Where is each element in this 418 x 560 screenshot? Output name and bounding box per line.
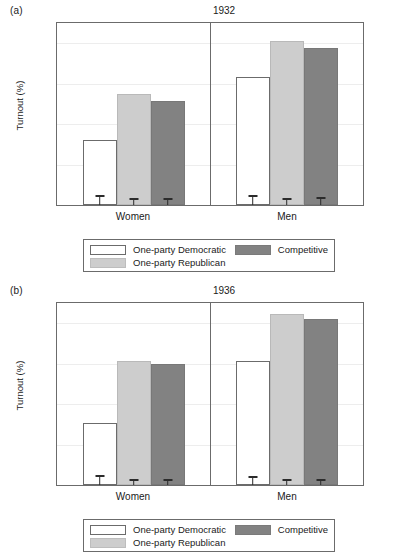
error-bar-line [252, 197, 254, 205]
bar-comp-women[interactable] [151, 364, 185, 485]
bar-slot [117, 303, 151, 485]
legend-row: One-party Republican [90, 256, 328, 269]
panel-a: (a) 1932 Turnout (%) 020406080 Women Men… [0, 0, 418, 280]
legend-item-one-party-republican: One-party Republican [90, 537, 242, 548]
panel-a-plot-area: 020406080 [56, 22, 364, 206]
error-bar-line [99, 477, 101, 485]
panel-a-y-axis-label: Turnout (%) [14, 51, 25, 161]
legend-item-competitive: Competitive [235, 244, 328, 255]
panel-b-y-axis-label: Turnout (%) [14, 331, 25, 441]
bar-slot [151, 23, 185, 205]
panel-b-xtick-women: Women [56, 491, 210, 502]
panel-a-xtick-men: Men [210, 211, 364, 222]
panel-b-legend: One-party Democratic Competitive One-par… [83, 519, 335, 552]
legend-label-republican: One-party Republican [133, 537, 225, 548]
legend-swatch-democratic-icon [90, 525, 126, 535]
bar-slot [151, 303, 185, 485]
panel-b-plot-area: 020406080 [56, 302, 364, 486]
error-bar-cap-upper [95, 195, 104, 197]
panel-b: (b) 1936 Turnout (%) 020406080 Women Men… [0, 280, 418, 560]
legend-swatch-republican-icon [90, 258, 126, 268]
bar-group-men [210, 23, 363, 205]
bar-dem-men[interactable] [236, 361, 270, 485]
bar-slot [117, 23, 151, 205]
bar-slot [304, 23, 338, 205]
error-bar-cap-upper [316, 479, 325, 481]
error-bar-line [286, 481, 288, 485]
bar-slot [236, 303, 270, 485]
error-bar-cap-upper [95, 475, 104, 477]
error-bar-cap-upper [282, 479, 291, 481]
panel-a-xtick-women: Women [56, 211, 210, 222]
legend-item-one-party-republican: One-party Republican [90, 257, 242, 268]
error-bar-line [99, 197, 101, 205]
bar-rep-men[interactable] [270, 314, 304, 485]
error-bar-cap-upper [163, 198, 172, 200]
legend-label-competitive: Competitive [278, 524, 328, 535]
error-bar-line [133, 481, 135, 485]
bar-dem-women[interactable] [83, 140, 117, 205]
bar-slot [304, 303, 338, 485]
bar-rep-women[interactable] [117, 361, 151, 485]
error-bar-cap-upper [129, 479, 138, 481]
bar-slot [236, 23, 270, 205]
error-bar-line [167, 481, 169, 485]
bar-slot [270, 303, 304, 485]
legend-label-republican: One-party Republican [133, 257, 225, 268]
bar-group-women [57, 303, 210, 485]
legend-label-democratic: One-party Democratic [133, 524, 226, 535]
error-bar-cap-upper [316, 197, 325, 199]
panel-b-xtick-men: Men [210, 491, 364, 502]
legend-swatch-competitive-icon [235, 525, 271, 535]
legend-item-competitive: Competitive [235, 524, 328, 535]
bar-group-women [57, 23, 210, 205]
legend-row: One-party Republican [90, 536, 328, 549]
error-bar-cap-upper [129, 198, 138, 200]
bar-slot [270, 23, 304, 205]
bar-comp-women[interactable] [151, 101, 185, 205]
error-bar-cap-upper [248, 476, 257, 478]
legend-item-one-party-democratic: One-party Democratic [90, 244, 235, 255]
error-bar-line [320, 481, 322, 485]
panel-a-plot-inner: 020406080 [57, 23, 363, 205]
figure-turnout-by-competition: (a) 1932 Turnout (%) 020406080 Women Men… [0, 0, 418, 560]
error-bar-line [252, 478, 254, 485]
panel-a-title: 1932 [0, 5, 418, 16]
error-bar-cap-upper [163, 479, 172, 481]
panel-b-title: 1936 [0, 285, 418, 296]
error-bar-cap-upper [248, 195, 257, 197]
error-bar-line [167, 200, 169, 205]
bar-rep-women[interactable] [117, 94, 151, 205]
panel-a-legend: One-party Democratic Competitive One-par… [83, 239, 335, 272]
bar-dem-women[interactable] [83, 423, 117, 485]
bar-rep-men[interactable] [270, 41, 304, 205]
bar-slot [83, 23, 117, 205]
legend-swatch-competitive-icon [235, 245, 271, 255]
error-bar-line [133, 200, 135, 205]
legend-swatch-democratic-icon [90, 245, 126, 255]
error-bar-cap-upper [282, 198, 291, 200]
bar-comp-men[interactable] [304, 319, 338, 485]
legend-label-democratic: One-party Democratic [133, 244, 226, 255]
legend-swatch-republican-icon [90, 538, 126, 548]
legend-row: One-party Democratic Competitive [90, 243, 328, 256]
bar-slot [83, 303, 117, 485]
bar-group-men [210, 303, 363, 485]
error-bar-line [320, 199, 322, 205]
legend-row: One-party Democratic Competitive [90, 523, 328, 536]
bar-comp-men[interactable] [304, 48, 338, 205]
legend-item-one-party-democratic: One-party Democratic [90, 524, 235, 535]
panel-b-plot-inner: 020406080 [57, 303, 363, 485]
error-bar-line [286, 200, 288, 205]
legend-label-competitive: Competitive [278, 244, 328, 255]
bar-dem-men[interactable] [236, 77, 270, 205]
